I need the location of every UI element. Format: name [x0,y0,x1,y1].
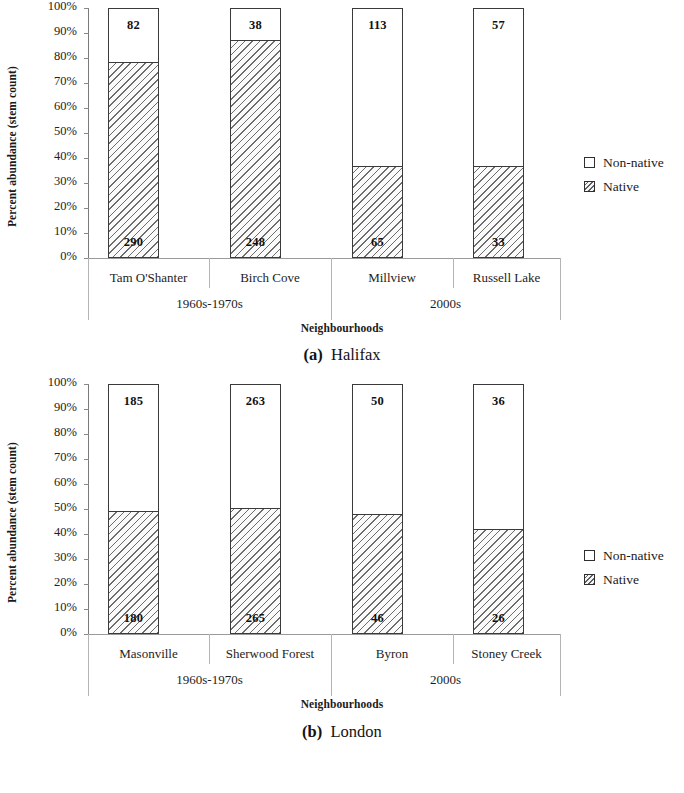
value-non-native: 185 [109,394,158,409]
x-axis-title-a: Neighbourhoods [0,322,684,334]
legend-item-non-native[interactable]: Non-native [584,153,664,177]
y-tick-mark [84,459,89,460]
y-tick-mark [84,409,89,410]
legend-item-non-native[interactable]: Non-native [584,546,664,570]
caption-text: London [331,722,382,741]
bar-masonville[interactable]: 185 180 [108,384,159,634]
value-native: 290 [109,235,158,250]
y-tick-label: 70% [54,450,77,465]
y-tick-label: 0% [60,625,77,640]
segment-non-native[interactable]: 185 [108,384,159,512]
bar-russell-lake[interactable]: 57 33 [473,8,524,258]
group-label-1960s-1970s: 1960s-1970s [88,672,331,688]
bar-byron[interactable]: 50 46 [352,384,403,634]
y-tick-mark [84,509,89,510]
segment-non-native[interactable]: 36 [473,384,524,530]
category-label: Byron [331,646,453,662]
category-label: Masonville [88,646,209,662]
category-axis-halifax: Tam O'Shanter Birch Cove Millview Russel… [88,258,560,320]
y-tick-mark [84,8,89,9]
bar-millview[interactable]: 113 65 [352,8,403,258]
y-tick-mark [84,559,89,560]
y-tick-mark [84,158,89,159]
legend-item-native[interactable]: Native [584,570,664,594]
y-tick-label: 100% [48,375,77,390]
value-native: 26 [474,611,523,626]
y-tick-label: 30% [54,174,77,189]
segment-native[interactable]: 265 [230,508,281,634]
value-non-native: 263 [231,394,280,409]
segment-native[interactable]: 46 [352,514,403,634]
segment-native[interactable]: 180 [108,511,159,634]
category-label: Tam O'Shanter [88,270,209,286]
bar-sherwood-forest[interactable]: 263 265 [230,384,281,634]
segment-native[interactable]: 65 [352,166,403,258]
legend-label: Non-native [603,548,664,563]
y-tick-mark [84,534,89,535]
legend-item-native[interactable]: Native [584,177,664,201]
segment-native[interactable]: 290 [108,62,159,258]
category-label: Sherwood Forest [209,646,331,662]
segment-non-native[interactable]: 263 [230,384,281,509]
caption-prefix: (a) [304,345,323,364]
legend-halifax: Non-native Native [584,153,664,201]
y-tick-label: 90% [54,400,77,415]
segment-non-native[interactable]: 82 [108,8,159,63]
value-native: 46 [353,611,402,626]
y-tick-label: 70% [54,74,77,89]
plot-inner-a: 100% 90% 80% 70% 60% 50% [89,8,553,258]
y-tick-label: 40% [54,149,77,164]
y-tick-label: 20% [54,575,77,590]
y-tick-mark [84,133,89,134]
y-tick-label: 40% [54,525,77,540]
segment-non-native[interactable]: 38 [230,8,281,41]
value-non-native: 38 [231,18,280,33]
y-tick-label: 100% [48,0,77,14]
y-tick-label: 60% [54,99,77,114]
segment-non-native[interactable]: 50 [352,384,403,515]
value-native: 248 [231,235,280,250]
segment-non-native[interactable]: 113 [352,8,403,167]
y-tick-mark [84,108,89,109]
legend-label: Native [603,572,639,587]
category-label: Stoney Creek [453,646,560,662]
segment-native[interactable]: 33 [473,166,524,258]
x-axis-title-b: Neighbourhoods [0,698,684,710]
segment-native[interactable]: 248 [230,40,281,258]
bar-birch-cove[interactable]: 38 248 [230,8,281,258]
plot-inner-b: 100% 90% 80% 70% 60% 50% [89,384,553,634]
segment-non-native[interactable]: 57 [473,8,524,167]
y-tick-label: 50% [54,124,77,139]
group-label-2000s: 2000s [331,672,560,688]
bar-tam-oshanter[interactable]: 82 290 [108,8,159,258]
y-tick-label: 20% [54,199,77,214]
group-label-2000s: 2000s [331,296,560,312]
y-tick-mark [84,208,89,209]
hatched-square-icon [584,181,595,192]
value-non-native: 82 [109,18,158,33]
y-axis-title-b: Percent abundance (stem count) [6,412,18,634]
bar-stoney-creek[interactable]: 36 26 [473,384,524,634]
y-tick-label: 50% [54,500,77,515]
open-square-icon [584,550,595,561]
y-tick-label: 10% [54,224,77,239]
value-native: 180 [109,611,158,626]
value-non-native: 113 [353,18,402,33]
y-tick-label: 80% [54,425,77,440]
category-label: Russell Lake [453,270,560,286]
y-tick-mark [84,233,89,234]
legend-london: Non-native Native [584,546,664,594]
y-tick-mark [84,584,89,585]
category-axis-london: Masonville Sherwood Forest Byron Stoney … [88,634,560,696]
y-tick-mark [84,484,89,485]
figure-london: Percent abundance (stem count) 100% 90% … [0,370,684,793]
segment-native[interactable]: 26 [473,529,524,634]
value-non-native: 36 [474,394,523,409]
plot-area-london: 100% 90% 80% 70% 60% 50% [88,384,553,634]
y-tick-mark [84,434,89,435]
value-native: 33 [474,235,523,250]
y-tick-label: 60% [54,475,77,490]
value-native: 65 [353,235,402,250]
y-tick-label: 80% [54,49,77,64]
y-axis-title-a: Percent abundance (stem count) [6,36,18,258]
